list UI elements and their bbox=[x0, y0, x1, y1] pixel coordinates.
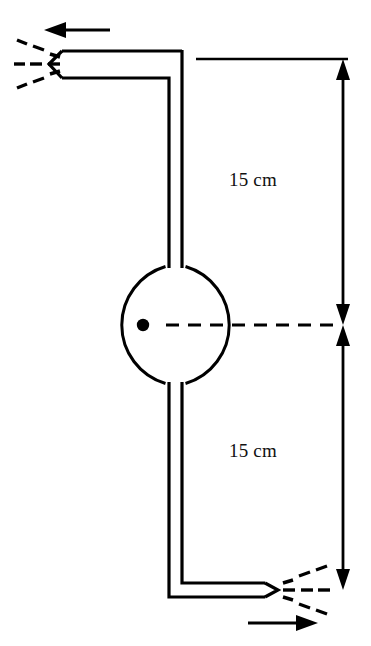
dimension-label-upper: 15 cm bbox=[229, 169, 277, 190]
upper-spray-icon bbox=[14, 40, 60, 88]
lower-spray-icon bbox=[283, 566, 330, 614]
diagram-canvas: 15 cm 15 cm bbox=[0, 0, 371, 646]
center-point-marker bbox=[137, 319, 149, 331]
lower-flow-arrow bbox=[248, 615, 318, 631]
upper-flow-arrow bbox=[44, 22, 110, 38]
dimension-upper bbox=[336, 59, 350, 325]
upper-tube bbox=[49, 50, 182, 264]
sprinkler-diagram: 15 cm 15 cm bbox=[0, 0, 371, 646]
lower-tube bbox=[169, 386, 278, 597]
dimension-lower bbox=[336, 325, 350, 590]
dimension-label-lower: 15 cm bbox=[229, 440, 277, 461]
